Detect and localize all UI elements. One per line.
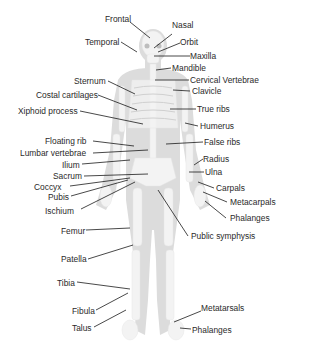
label-patella: Patella bbox=[61, 254, 87, 264]
label-tibia: Tibia bbox=[57, 278, 75, 288]
label-mandible: Mandible bbox=[172, 63, 206, 73]
label-pubic-symphysis: Public symphysis bbox=[191, 231, 255, 241]
label-ischium: Ischium bbox=[45, 206, 74, 216]
label-sacrum: Sacrum bbox=[53, 171, 82, 181]
label-talus: Talus bbox=[72, 323, 92, 333]
label-false-ribs: False ribs bbox=[204, 137, 240, 147]
label-cervical-vertebrae: Cervical Vertebrae bbox=[190, 75, 259, 85]
label-pubis: Pubis bbox=[48, 192, 69, 202]
label-humerus: Humerus bbox=[200, 121, 234, 131]
label-temporal: Temporal bbox=[85, 37, 119, 47]
label-metacarpals: Metacarpals bbox=[230, 197, 276, 207]
label-carpals: Carpals bbox=[216, 183, 245, 193]
label-true-ribs: True ribs bbox=[197, 104, 230, 114]
label-orbit: Orbit bbox=[180, 37, 198, 47]
label-ilium: Ilium bbox=[62, 160, 80, 170]
label-xiphoid-process: Xiphoid process bbox=[18, 106, 78, 116]
skeleton-diagram: Frontal Temporal Sternum Costal cartilag… bbox=[0, 0, 317, 352]
label-coccyx: Coccyx bbox=[34, 182, 61, 192]
label-maxilla: Maxilla bbox=[190, 51, 216, 61]
label-ulna: Ulna bbox=[205, 167, 222, 177]
skeleton-figure bbox=[0, 0, 317, 352]
label-femur: Femur bbox=[61, 226, 85, 236]
label-floating-rib: Floating rib bbox=[45, 136, 86, 146]
label-phalanges-hand: Phalanges bbox=[230, 213, 270, 223]
label-sternum: Sternum bbox=[74, 76, 106, 86]
label-nasal: Nasal bbox=[172, 20, 193, 30]
label-metatarsals: Metatarsals bbox=[201, 303, 244, 313]
label-clavicle: Clavicle bbox=[192, 86, 221, 96]
label-costal-cartilages: Costal cartilages bbox=[36, 90, 98, 100]
label-fibula: Fibula bbox=[72, 306, 95, 316]
label-frontal: Frontal bbox=[105, 14, 131, 24]
orbit-left bbox=[145, 44, 150, 49]
label-phalanges-foot: Phalanges bbox=[192, 325, 232, 335]
leader-frontal bbox=[130, 22, 150, 38]
label-lumbar-vertebrae: Lumbar vertebrae bbox=[20, 148, 86, 158]
label-radius: Radius bbox=[203, 154, 229, 164]
